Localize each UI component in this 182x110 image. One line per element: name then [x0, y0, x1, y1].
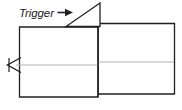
right-rectangle [98, 24, 175, 95]
left-rectangle [20, 27, 99, 97]
trigger-label: Trigger [19, 7, 55, 19]
trigger-pointer-triangle [66, 3, 100, 27]
trigger-leader-arrowhead-icon [65, 9, 73, 16]
diagram-canvas: Trigger [0, 0, 182, 110]
technical-diagram: Trigger [0, 0, 182, 110]
